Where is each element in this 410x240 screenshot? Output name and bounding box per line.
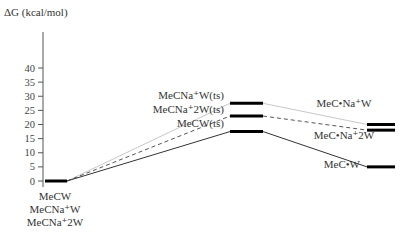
y-tick-label: 35 [25, 77, 36, 88]
y-tick-label: 20 [25, 119, 36, 130]
y-tick-label: 25 [25, 105, 36, 116]
y-tick-label: 10 [25, 147, 36, 158]
product-label-mec-w: MeC•W [324, 158, 361, 170]
energy-diagram: ΔG (kcal/mol) 0510152025303540 MeCW MeCN… [0, 0, 410, 240]
reactant-label-mecna-w: MeCNa⁺W [29, 203, 81, 215]
reactant-label-mecw: MeCW [39, 190, 72, 202]
path-segment-mecw [67, 132, 230, 181]
ts-label-mecna-w: MeCNa⁺W(ts) [158, 89, 224, 102]
ts-label-mecna-2w: MeCNa⁺2W(ts) [153, 103, 225, 116]
reactant-label-mecna-2w: MeCNa⁺2W [27, 216, 84, 228]
y-tick-label: 0 [30, 176, 35, 187]
y-axis-title: ΔG (kcal/mol) [4, 6, 68, 19]
y-tick-label: 5 [30, 161, 35, 172]
y-tick-label: 15 [25, 133, 36, 144]
product-label-mec-na-w: MeC•Na⁺W [317, 97, 372, 109]
product-label-mec-na-2w: MeC•Na⁺2W [314, 129, 375, 141]
y-tick-label: 30 [25, 91, 36, 102]
y-axis-ticks: 0510152025303540 [25, 63, 44, 187]
y-tick-label: 40 [25, 63, 36, 74]
ts-label-mecw: MeCW(ts) [177, 117, 224, 130]
